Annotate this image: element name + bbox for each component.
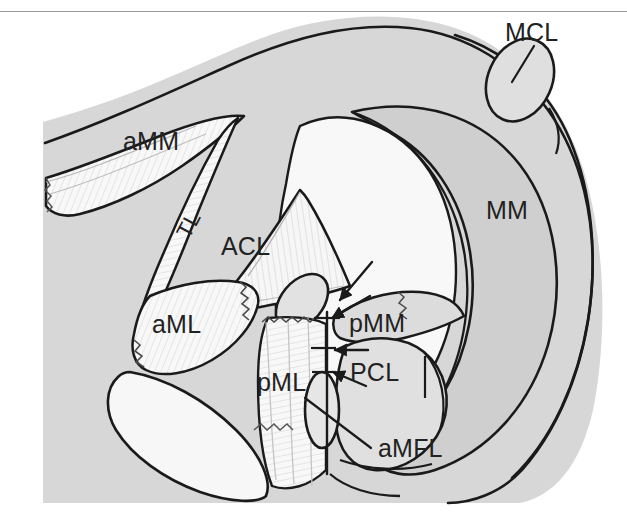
label-pmm: pMM bbox=[349, 309, 405, 338]
label-mcl: MCL bbox=[505, 18, 558, 47]
label-acl: ACL bbox=[221, 232, 270, 261]
label-pcl: PCL bbox=[350, 358, 399, 387]
label-mm: MM bbox=[486, 196, 528, 225]
label-pml: pML bbox=[257, 368, 306, 397]
figure-root: MCL aMM TL ACL MM aML pMM pML PCL aMFL bbox=[0, 0, 627, 521]
knee-anatomy-illustration bbox=[0, 0, 627, 521]
label-amm: aMM bbox=[123, 127, 179, 156]
label-amfl: aMFL bbox=[378, 434, 443, 463]
label-aml: aML bbox=[152, 310, 201, 339]
